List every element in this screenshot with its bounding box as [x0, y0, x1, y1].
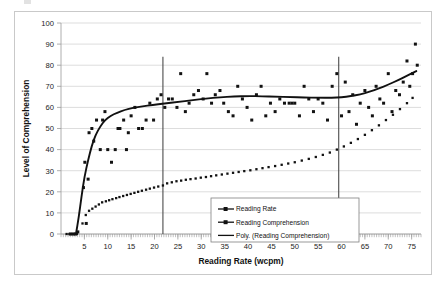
y-tick-label: 80 — [46, 61, 54, 70]
data-point — [205, 176, 207, 178]
y-tick-label: 50 — [46, 124, 54, 133]
data-point — [344, 81, 347, 84]
data-point — [188, 102, 191, 105]
y-tick-label: 90 — [46, 40, 54, 49]
data-point — [399, 108, 401, 110]
data-point — [371, 129, 373, 131]
y-tick-label: 30 — [46, 167, 54, 176]
chart-legend[interactable]: Reading RateReading ComprehensionPoly. (… — [211, 198, 359, 242]
data-point — [364, 134, 366, 136]
data-point — [106, 148, 109, 151]
x-tick-label: 35 — [220, 242, 228, 251]
x-tick-label: 10 — [104, 242, 112, 251]
data-point — [94, 205, 96, 207]
data-point — [184, 110, 187, 113]
legend-marker-icon — [224, 207, 228, 211]
data-point — [88, 210, 90, 212]
data-point — [185, 179, 187, 181]
data-point — [398, 93, 401, 96]
data-point — [241, 97, 244, 100]
data-point — [179, 72, 182, 75]
data-point — [348, 110, 351, 113]
data-point — [238, 171, 240, 173]
data-point — [157, 185, 159, 187]
data-point — [385, 119, 387, 121]
data-point — [336, 148, 338, 150]
data-point — [236, 85, 239, 88]
data-point — [269, 102, 272, 105]
data-point — [375, 85, 378, 88]
data-point — [246, 106, 249, 109]
data-point — [326, 119, 329, 122]
data-point — [298, 114, 301, 117]
scan-artifact — [24, 0, 31, 4]
data-point — [141, 190, 143, 192]
data-point — [81, 222, 83, 224]
data-point — [194, 177, 196, 179]
data-point — [392, 114, 394, 116]
data-point — [137, 127, 140, 130]
data-point — [215, 174, 217, 176]
y-tick-label: 40 — [46, 145, 54, 154]
data-point — [293, 102, 296, 105]
data-point — [405, 59, 408, 62]
data-point — [255, 168, 257, 170]
x-tick-label: 65 — [361, 242, 369, 251]
data-point — [232, 172, 234, 174]
data-point — [103, 110, 106, 113]
data-point — [264, 114, 267, 117]
data-point — [88, 131, 91, 134]
data-point — [267, 166, 269, 168]
y-tick-label: 10 — [46, 209, 54, 218]
x-tick-label: 30 — [197, 242, 205, 251]
data-point — [281, 164, 283, 166]
data-point — [222, 102, 225, 105]
data-point — [287, 162, 289, 164]
legend-label: Reading Comprehension — [236, 219, 309, 227]
data-point — [363, 89, 366, 92]
legend-marker-icon — [224, 220, 228, 224]
data-point — [315, 156, 317, 158]
data-point — [87, 178, 90, 181]
data-point — [411, 97, 413, 99]
data-point — [367, 106, 370, 109]
data-point — [175, 180, 177, 182]
data-point — [105, 200, 107, 202]
data-point — [232, 114, 235, 117]
data-point — [162, 184, 164, 186]
data-point — [83, 161, 86, 164]
y-tick-label: 60 — [46, 103, 54, 112]
data-point — [127, 131, 130, 134]
y-axis-label: Level of Comprehension — [21, 80, 31, 178]
data-point — [294, 161, 296, 163]
data-point — [101, 201, 103, 203]
data-point — [406, 102, 408, 104]
data-point — [371, 114, 374, 117]
x-tick-label: 50 — [291, 242, 299, 251]
data-point — [156, 97, 159, 100]
y-tick-label: 100 — [41, 19, 54, 28]
data-point — [65, 233, 67, 235]
data-point — [214, 93, 217, 96]
data-point — [221, 173, 223, 175]
data-point — [99, 148, 102, 151]
data-point — [90, 127, 93, 130]
x-tick-label: 5 — [82, 242, 86, 251]
data-point — [130, 193, 132, 195]
data-point — [95, 119, 98, 122]
data-point — [301, 159, 303, 161]
data-point — [108, 199, 110, 201]
data-point — [189, 178, 191, 180]
data-point — [378, 124, 380, 126]
data-point — [387, 72, 390, 75]
data-point — [378, 97, 381, 100]
data-point — [153, 186, 155, 188]
data-point — [218, 89, 221, 92]
x-tick-label: 70 — [384, 242, 392, 251]
data-point — [210, 102, 213, 105]
data-point — [166, 182, 168, 184]
data-point — [145, 189, 147, 191]
data-point — [110, 161, 113, 164]
data-point — [91, 208, 93, 210]
data-point — [98, 203, 100, 205]
